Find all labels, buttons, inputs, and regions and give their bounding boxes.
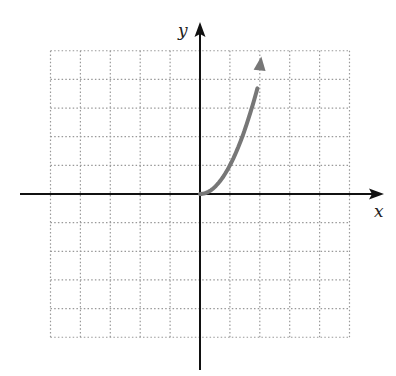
y-axis-label: y [177, 20, 188, 40]
curve-line [200, 88, 257, 194]
curve-series [200, 56, 266, 194]
coordinate-plane: x y [0, 0, 396, 376]
axes [20, 22, 384, 370]
x-axis-label: x [374, 201, 384, 221]
